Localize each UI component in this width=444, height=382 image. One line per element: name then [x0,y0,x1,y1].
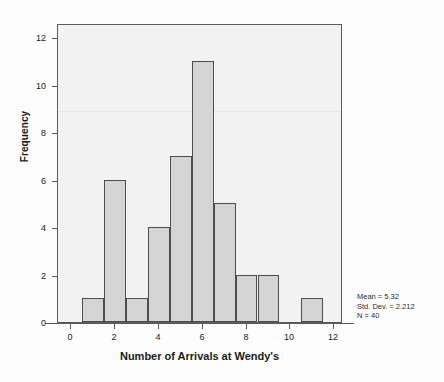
y-axis-tick-label: 10 [20,81,46,91]
y-axis-tick-label: 2 [20,271,46,281]
y-axis-tick-label: 4 [20,223,46,233]
x-axis-tick [158,324,159,329]
x-axis-line [45,323,354,324]
y-axis-tick [52,38,57,39]
x-axis-tick-label: 0 [57,332,83,342]
y-axis-tick-label: 12 [20,33,46,43]
x-axis-tick-label: 8 [233,332,259,342]
x-axis-tick-label: 12 [320,332,346,342]
histogram-bar [82,298,104,322]
plot-inner [58,25,341,322]
y-axis-tick [52,133,57,134]
x-axis-tick [114,324,115,329]
y-axis-tick [52,86,57,87]
histogram-bar [301,298,323,322]
x-axis-tick-label: 10 [276,332,302,342]
y-axis-tick-label: 8 [20,128,46,138]
x-axis-tick [70,324,71,329]
histogram-figure: Frequency 024681012 024681012 Number of … [0,0,444,382]
sample-size-text: N = 40 [357,311,415,321]
x-axis-tick-label: 6 [189,332,215,342]
histogram-bar [236,275,258,322]
plot-area [57,24,342,323]
histogram-bar [192,61,214,322]
y-axis-tick-label: 0 [20,318,46,328]
histogram-bar [170,156,192,322]
histogram-bar [126,298,148,322]
mean-text: Mean = 5.32 [357,292,415,302]
stddev-text: Std. Dev. = 2.212 [357,302,415,312]
y-axis-tick [52,228,57,229]
x-axis-tick [246,324,247,329]
statistics-annotation: Mean = 5.32 Std. Dev. = 2.212 N = 40 [357,292,415,321]
histogram-bar [214,203,236,322]
x-axis-tick-label: 2 [101,332,127,342]
x-axis-tick [333,324,334,329]
histogram-bar [104,180,126,322]
y-axis-tick-label: 6 [20,176,46,186]
x-axis-tick-label: 4 [145,332,171,342]
histogram-bar [258,275,280,322]
x-axis-title: Number of Arrivals at Wendy's [57,350,342,362]
histogram-bar [148,227,170,322]
x-axis-tick [289,324,290,329]
y-axis-tick [52,276,57,277]
y-axis-tick [52,181,57,182]
x-axis-tick [202,324,203,329]
